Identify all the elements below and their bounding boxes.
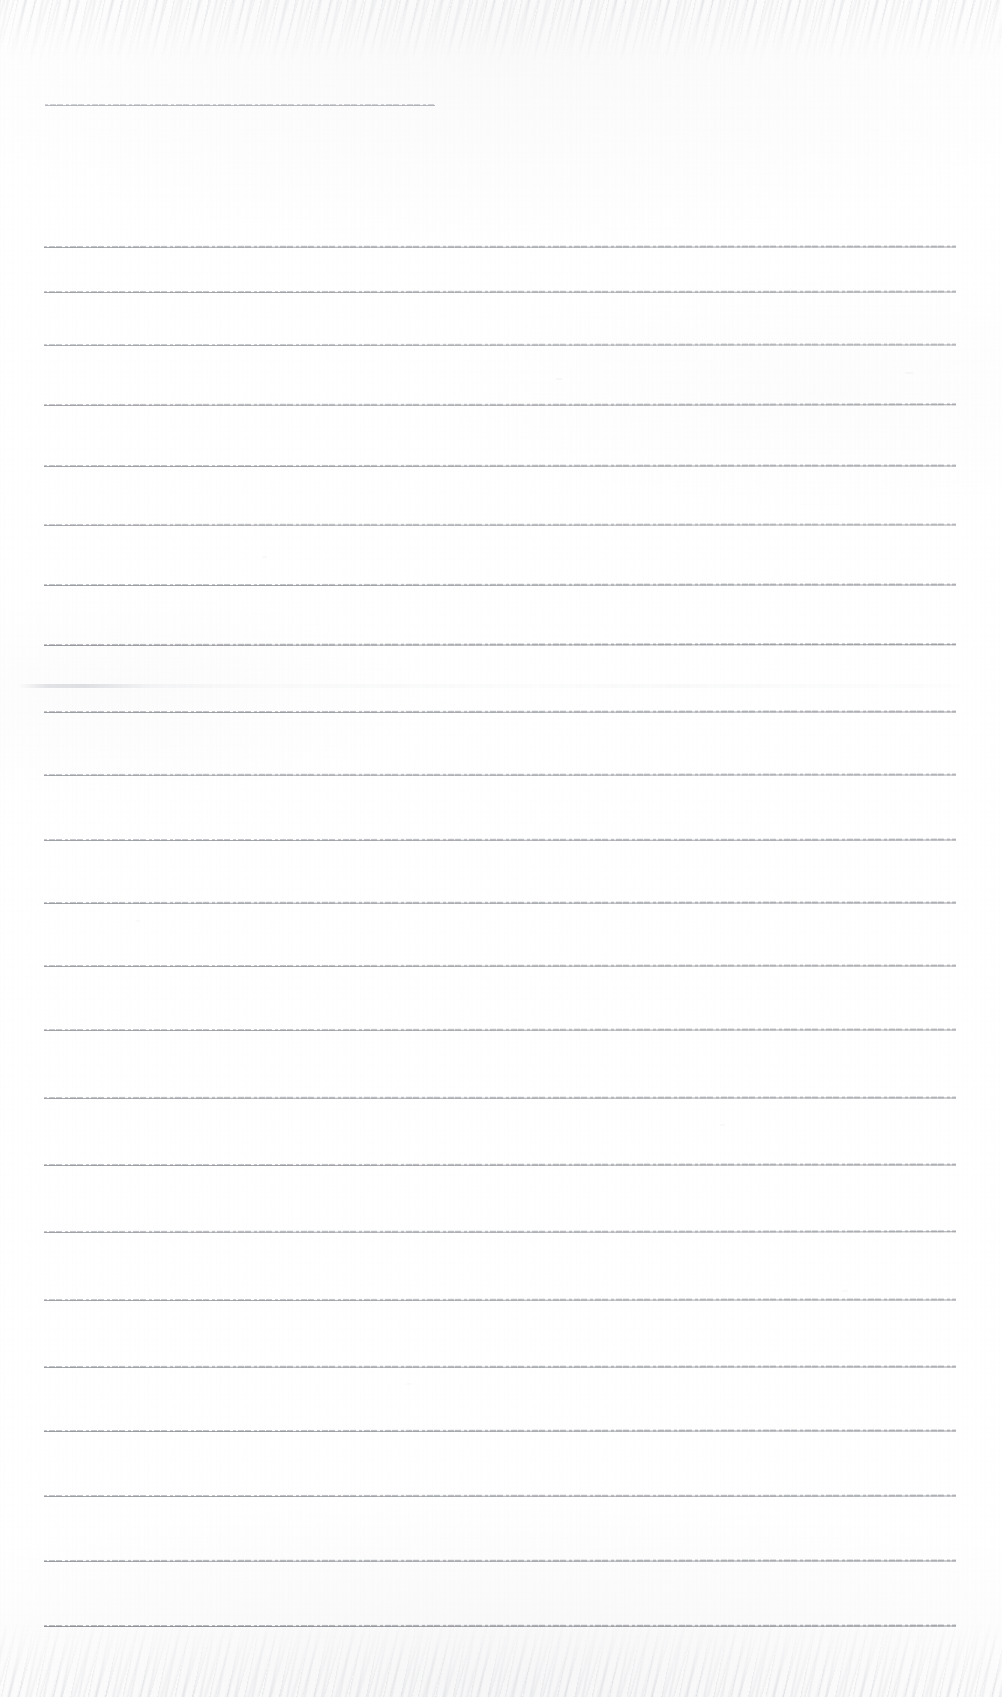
ruled-line bbox=[44, 1430, 956, 1433]
ruled-line-ink bbox=[44, 523, 956, 527]
ruled-line bbox=[44, 965, 956, 968]
ruled-line-ink bbox=[44, 1164, 956, 1167]
scan-edge-noise-top bbox=[0, 0, 1002, 62]
ruled-line bbox=[44, 465, 956, 468]
ruled-line-ink bbox=[44, 965, 956, 968]
header-short-rule bbox=[45, 104, 435, 107]
ruled-line-ink bbox=[44, 291, 956, 294]
ruled-line-ink bbox=[44, 1230, 956, 1234]
ruled-line bbox=[44, 1230, 956, 1234]
ruled-line bbox=[44, 711, 956, 714]
ruled-line-ink bbox=[44, 1299, 956, 1302]
ruled-line bbox=[44, 1495, 956, 1498]
ruled-line-ink bbox=[44, 643, 956, 647]
ruled-line-ink bbox=[44, 1365, 956, 1369]
ruled-line-ink bbox=[44, 773, 956, 777]
ruled-line-ink bbox=[44, 1495, 956, 1498]
scan-edge-noise-bottom bbox=[0, 1619, 1002, 1697]
ruled-line-ink bbox=[44, 344, 956, 347]
ruled-line bbox=[44, 344, 956, 347]
ruled-line bbox=[44, 403, 956, 407]
ruled-line-ink bbox=[44, 901, 956, 905]
ruled-line bbox=[44, 1029, 956, 1032]
ruled-line bbox=[44, 1559, 956, 1563]
ruled-line bbox=[44, 1096, 956, 1100]
ruled-line bbox=[44, 643, 956, 647]
ruled-line-ink bbox=[44, 1096, 956, 1100]
ruled-line bbox=[44, 584, 956, 587]
header-short-rule-ink bbox=[45, 104, 435, 107]
scan-fleck bbox=[842, 1290, 848, 1292]
ruled-line-ink bbox=[44, 584, 956, 587]
scan-fleck bbox=[720, 1124, 725, 1126]
scan-fleck bbox=[262, 556, 267, 558]
scan-fleck bbox=[905, 372, 913, 374]
ruled-line-ink bbox=[44, 245, 956, 249]
scan-fleck bbox=[556, 378, 562, 380]
ruled-line bbox=[44, 523, 956, 527]
ruled-line bbox=[44, 291, 956, 294]
ruled-line-ink bbox=[44, 403, 956, 407]
scan-grain-overlay bbox=[0, 0, 1002, 1697]
ruled-line bbox=[44, 839, 956, 842]
ruled-line bbox=[44, 901, 956, 905]
scanned-page bbox=[0, 0, 1002, 1697]
paper-surface bbox=[0, 0, 1002, 1697]
ruled-line bbox=[44, 1625, 956, 1628]
ruled-line bbox=[44, 245, 956, 249]
ruled-line-ink bbox=[44, 711, 956, 714]
ruled-line bbox=[44, 1299, 956, 1302]
ruled-line-ink bbox=[44, 839, 956, 842]
ghost-smudge-rule bbox=[18, 684, 960, 688]
ruled-line-ink bbox=[44, 1625, 956, 1628]
ruled-line-ink bbox=[44, 1430, 956, 1433]
scan-fleck bbox=[136, 920, 140, 922]
ruled-line bbox=[44, 1365, 956, 1369]
ruled-line bbox=[44, 773, 956, 777]
ruled-line-ink bbox=[44, 1559, 956, 1563]
ruled-line-ink bbox=[44, 1029, 956, 1032]
ruled-line bbox=[44, 1164, 956, 1167]
scan-fleck bbox=[407, 1383, 411, 1385]
ruled-line-ink bbox=[44, 465, 956, 468]
